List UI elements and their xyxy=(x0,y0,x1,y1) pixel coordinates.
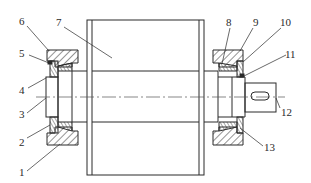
label-5: 5 xyxy=(19,47,25,59)
label-4: 4 xyxy=(19,84,25,96)
bearing-roller-diagram: 6 5 4 3 2 1 7 8 9 10 11 12 13 xyxy=(0,0,311,183)
right-shaft-section xyxy=(218,71,245,122)
label-2: 2 xyxy=(19,136,25,148)
part-labels: 6 5 4 3 2 1 7 8 9 10 11 12 13 xyxy=(19,15,296,178)
label-8: 8 xyxy=(226,16,232,28)
label-9: 9 xyxy=(253,16,259,28)
label-7: 7 xyxy=(56,16,62,28)
left-shaft-end xyxy=(46,71,72,122)
label-3: 3 xyxy=(19,108,25,120)
drum xyxy=(87,20,204,175)
shaft xyxy=(72,71,218,122)
label-12: 12 xyxy=(281,106,292,118)
label-1: 1 xyxy=(19,166,25,178)
leader-lines xyxy=(27,26,286,171)
label-10: 10 xyxy=(280,16,292,28)
label-6: 6 xyxy=(19,15,25,27)
label-13: 13 xyxy=(264,141,276,153)
right-shaft-extension xyxy=(245,83,276,112)
keyway-slot xyxy=(251,92,269,100)
label-11: 11 xyxy=(285,48,296,60)
